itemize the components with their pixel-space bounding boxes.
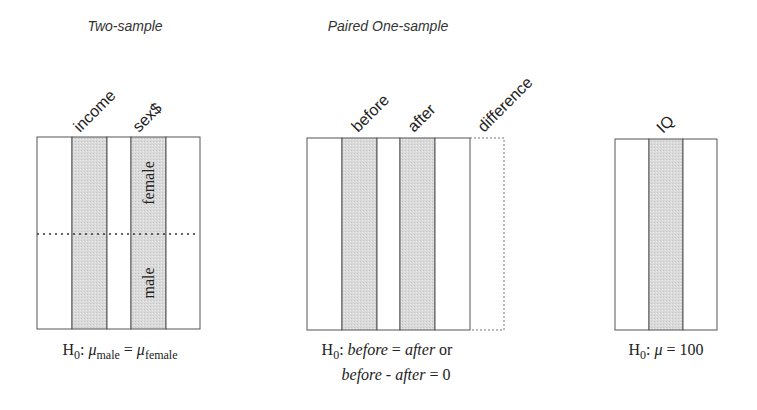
- column-blank: [683, 139, 717, 330]
- group-label-male: male: [140, 267, 157, 298]
- column-income: [72, 137, 107, 329]
- column-before: [342, 138, 377, 330]
- panel-paired-one-sample: before after difference H0: before = aft…: [307, 74, 536, 384]
- column-iq: [649, 139, 683, 330]
- heading-paired-one-sample: Paired One-sample: [328, 18, 449, 34]
- column-blank: [377, 138, 400, 330]
- hypothesis-one-sample: H0: μ = 100: [628, 341, 703, 362]
- column-blank: [166, 137, 200, 329]
- column-difference: [470, 138, 504, 330]
- column-label-after: after: [404, 100, 439, 135]
- column-label-income: income: [70, 87, 119, 136]
- column-label-sex: sex$: [129, 99, 165, 135]
- heading-two-sample: Two-sample: [87, 18, 162, 34]
- hypothesis-paired-line2: before - after = 0: [342, 366, 451, 384]
- panel-one-sample: IQ H0: μ = 100: [615, 112, 717, 362]
- group-label-female: female: [140, 161, 157, 205]
- hypothesis-two-sample: H0: μmale = μfemale: [62, 341, 177, 362]
- column-label-before: before: [348, 91, 392, 135]
- hypothesis-paired-line1: H0: before = after or: [322, 341, 454, 362]
- column-blank: [615, 139, 649, 330]
- column-blank: [307, 138, 342, 330]
- column-label-iq: IQ: [653, 112, 677, 136]
- column-blank: [37, 137, 72, 329]
- column-blank: [435, 138, 470, 330]
- column-after: [400, 138, 435, 330]
- hypothesis-test-diagram: Two-sample Paired One-sample income sex$…: [0, 0, 757, 410]
- column-blank: [107, 137, 131, 329]
- panel-two-sample: income sex$ female male H0: μmale = μfem…: [37, 87, 200, 362]
- column-label-difference: difference: [474, 74, 536, 136]
